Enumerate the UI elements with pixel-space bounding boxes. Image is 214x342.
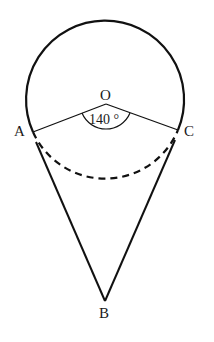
circle-minor-arc-dashed	[33, 130, 178, 179]
label-A: A	[14, 123, 25, 139]
label-B: B	[99, 305, 109, 321]
angle-label: 140 °	[89, 112, 119, 127]
label-C: C	[184, 123, 194, 139]
geometry-diagram: O A C B 140 °	[0, 0, 214, 342]
tangent-AB	[36, 142, 105, 301]
label-O: O	[100, 87, 111, 103]
tangent-CB	[105, 140, 175, 301]
